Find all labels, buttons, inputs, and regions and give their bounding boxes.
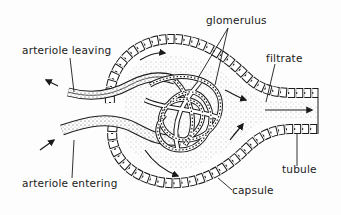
outflow-arrow-icon: [46, 80, 58, 86]
label-arteriole-entering: arteriole entering: [22, 178, 118, 189]
label-tubule: tubule: [282, 164, 317, 175]
label-glomerulus: glomerulus: [206, 15, 267, 26]
nephron-diagram: arteriole leaving arteriole entering glo…: [0, 0, 341, 215]
label-capsule: capsule: [232, 185, 274, 196]
inflow-arrow-icon: [40, 140, 54, 150]
label-filtrate: filtrate: [266, 53, 303, 64]
label-arteriole-leaving: arteriole leaving: [22, 45, 111, 56]
